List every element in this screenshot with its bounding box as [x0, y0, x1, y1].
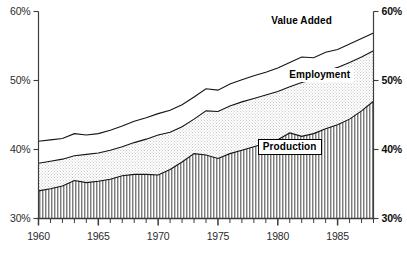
y-label-30-left: 30% [0, 212, 31, 224]
chart-bands [39, 33, 374, 219]
y-label-50-right: 50% [382, 74, 402, 86]
annotation-value-added: Value Added [267, 14, 336, 28]
annotation-production: Production [258, 139, 322, 155]
chart-plot-area [0, 0, 407, 256]
annotation-employment: Employment [285, 68, 354, 82]
x-label-1985: 1985 [0, 230, 407, 242]
y-label-60-left: 60% [0, 5, 31, 17]
y-label-50-left: 50% [0, 74, 31, 86]
area-chart: 60% 50% 40% 30% 60% 50% 40% 30% 1960 196… [0, 0, 407, 256]
y-axis-right-ticks [374, 12, 379, 219]
y-label-40-left: 40% [0, 143, 31, 155]
y-label-30-right: 30% [382, 212, 402, 224]
y-label-60-right: 60% [382, 5, 402, 17]
y-axis-left-ticks [34, 12, 39, 219]
y-label-40-right: 40% [382, 143, 402, 155]
x-axis-ticks [39, 219, 374, 226]
